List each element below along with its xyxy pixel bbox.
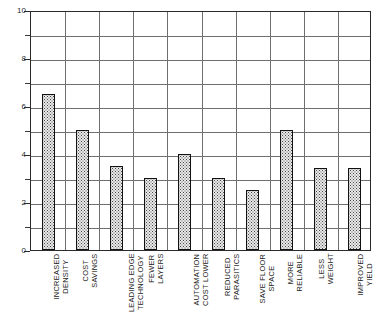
gridline-horizontal (31, 60, 370, 61)
x-axis-category-label: FEWERLAYERS (132, 253, 166, 327)
x-axis-category-labels: INCREASEDDENSITYCOSTSAVINGSLEADING EDGET… (30, 253, 371, 329)
bar-chart: 0246810 INCREASEDDENSITYCOSTSAVINGSLEADI… (0, 0, 381, 329)
gridline-vertical (304, 12, 305, 250)
y-axis-tick-label: 4 (4, 151, 26, 159)
category-label-text: IMPROVEDYIELD (358, 253, 375, 295)
x-axis-category-label: LEADING EDGETECHNOLOGY (98, 253, 132, 327)
gridline-vertical (167, 12, 168, 250)
y-axis-tick-label: 6 (4, 103, 26, 111)
y-axis-tick-label: 2 (4, 199, 26, 207)
y-axis-tick-label: 0 (4, 247, 26, 255)
category-label-text: FEWERLAYERS (147, 253, 164, 283)
bar (246, 190, 259, 250)
bar (76, 130, 89, 250)
y-axis-tick-mark (24, 155, 30, 156)
gridline-horizontal (31, 36, 370, 37)
gridline-vertical (236, 12, 237, 250)
gridline-horizontal (31, 84, 370, 85)
gridline-vertical (133, 12, 134, 250)
gridline-horizontal (31, 108, 370, 109)
x-axis-category-label: REDUCEDPARASITICS (201, 253, 235, 327)
y-axis-tick-mark (24, 251, 30, 252)
y-axis-tick-mark (24, 11, 30, 12)
gridline-vertical (270, 12, 271, 250)
bar (280, 130, 293, 250)
category-label-text: LESSWEIGHT (318, 253, 335, 284)
bar (110, 166, 123, 250)
x-axis-category-label: MORERELIABLE (269, 253, 303, 327)
y-axis: 0246810 (0, 0, 26, 329)
bar (144, 178, 157, 250)
y-axis-tick-label: 8 (4, 55, 26, 63)
gridline-vertical (65, 12, 66, 250)
x-axis-category-label: INCREASEDDENSITY (30, 253, 64, 327)
x-axis-category-label: COSTSAVINGS (64, 253, 98, 327)
bar (348, 168, 361, 250)
bar (42, 94, 55, 250)
y-axis-minor-tick-mark (25, 35, 30, 36)
gridline-vertical (202, 12, 203, 250)
y-axis-minor-tick-mark (25, 179, 30, 180)
x-axis-category-label: AUTOMATIONCOST LOWER (166, 253, 200, 327)
x-axis-category-label: SAVE FLOORSPACE (235, 253, 269, 327)
x-axis-category-label: LESSWEIGHT (303, 253, 337, 327)
x-axis-category-label: IMPROVEDYIELD (337, 253, 371, 327)
bar (314, 168, 327, 250)
y-axis-tick-mark (24, 107, 30, 108)
y-axis-tick-label: 10 (4, 7, 26, 15)
y-axis-tick-mark (24, 203, 30, 204)
y-axis-tick-mark (24, 59, 30, 60)
y-axis-minor-tick-mark (25, 131, 30, 132)
bar (212, 178, 225, 250)
bar (178, 154, 191, 250)
gridline-vertical (338, 12, 339, 250)
y-axis-minor-tick-mark (25, 227, 30, 228)
gridline-vertical (99, 12, 100, 250)
category-label-text: COSTSAVINGS (81, 253, 98, 287)
plot-area (30, 11, 371, 251)
y-axis-minor-tick-mark (25, 83, 30, 84)
